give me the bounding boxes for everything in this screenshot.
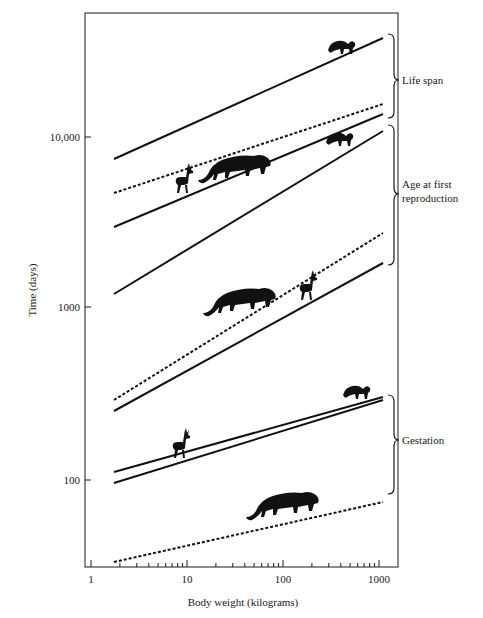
y-tick-label: 100: [64, 474, 81, 486]
x-tick-label: 10: [182, 573, 194, 585]
group-label-gestation: Gestation: [402, 434, 445, 446]
gestation-carnivores-line: [114, 502, 383, 562]
life-span-carnivores-line: [114, 104, 383, 193]
lion-silhouette-icon: [246, 492, 319, 520]
group-label-life-span: Life span: [402, 74, 444, 86]
afr-ungulates-lower-line: [114, 263, 383, 411]
group-label-afr: Age at first: [402, 178, 451, 190]
lion-silhouette-icon: [198, 155, 271, 183]
monkey-silhouette-icon: [343, 386, 370, 399]
y-axis-ticks: [85, 137, 91, 480]
life-span-brace: [388, 34, 399, 118]
afr-carnivores-line: [114, 233, 383, 400]
deer-silhouette-icon: [300, 270, 318, 300]
x-tick-label: 1000: [368, 573, 391, 585]
y-tick-label: 1000: [58, 301, 81, 313]
x-tick-label: 100: [275, 573, 292, 585]
gestation-primates-line: [114, 400, 383, 483]
group-braces: [388, 34, 399, 494]
group-label-afr-2: reproduction: [402, 192, 459, 204]
x-axis-ticks: [91, 560, 379, 567]
chart: 10,000 1000 100 1 10 100 1000 Body weigh…: [0, 0, 483, 618]
gestation-ungulates-line: [114, 397, 383, 472]
lion-silhouette-icon: [203, 288, 276, 316]
y-axis-title: Time (days): [26, 263, 39, 316]
x-tick-label: 1: [88, 573, 94, 585]
afr-brace: [388, 125, 399, 265]
afr-primates-line: [114, 131, 383, 294]
deer-silhouette-icon: [176, 163, 194, 193]
monkey-silhouette-icon: [326, 133, 353, 146]
monkey-silhouette-icon: [328, 41, 355, 54]
gestation-brace: [388, 395, 399, 494]
x-axis-title: Body weight (kilograms): [188, 596, 299, 609]
y-tick-label: 10,000: [50, 131, 81, 143]
